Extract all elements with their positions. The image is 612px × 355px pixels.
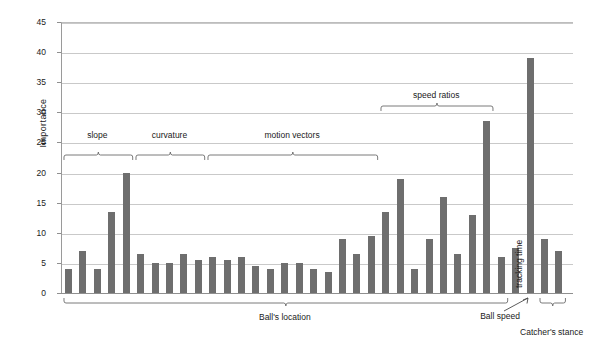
motion-vectors-label: motion vectors <box>264 130 319 140</box>
bar <box>108 212 115 293</box>
catchers-stance-label: Catcher's stance <box>520 327 583 337</box>
bar <box>411 269 418 293</box>
y-tick-label-30: 30 <box>20 108 46 117</box>
slope-brace <box>63 148 134 162</box>
bar <box>65 269 72 293</box>
bar <box>382 212 389 293</box>
bar <box>166 263 173 293</box>
bar <box>180 254 187 293</box>
bar <box>123 173 130 293</box>
bar-chart: Importance 051015202530354045 slope curv… <box>0 0 612 355</box>
bar <box>397 179 404 293</box>
bar <box>339 239 346 293</box>
bar <box>469 215 476 293</box>
y-tick-label-0: 0 <box>20 289 46 298</box>
y-tick-label-35: 35 <box>20 78 46 87</box>
slope-label: slope <box>87 130 107 140</box>
ball-speed-label: Ball speed <box>480 311 520 321</box>
bar <box>224 260 231 293</box>
y-tick-label-20: 20 <box>20 169 46 178</box>
bar <box>454 254 461 293</box>
y-tick-label-40: 40 <box>20 48 46 57</box>
bar <box>152 263 159 293</box>
x-axis-baseline <box>61 293 573 294</box>
bar <box>267 269 274 293</box>
bar <box>440 197 447 293</box>
bar <box>353 254 360 293</box>
bar <box>238 257 245 293</box>
y-tick-label-5: 5 <box>20 259 46 268</box>
bar <box>483 121 490 293</box>
bar <box>195 260 202 293</box>
bar <box>498 257 505 293</box>
bar <box>137 254 144 293</box>
bar <box>368 236 375 293</box>
bar <box>296 263 303 293</box>
y-tick-label-10: 10 <box>20 229 46 238</box>
y-axis-label: Importance <box>38 78 48 168</box>
bar <box>281 263 288 293</box>
bar <box>310 269 317 293</box>
curvature-brace <box>135 148 206 162</box>
balls-location-brace <box>63 296 509 310</box>
bar <box>325 272 332 293</box>
speed-ratios-brace <box>380 99 494 113</box>
balls-location-label: Ball's location <box>259 312 311 322</box>
catchers-stance-brace <box>539 296 566 310</box>
bar <box>541 239 548 293</box>
y-tick-label-45: 45 <box>20 18 46 27</box>
y-tick-label-25: 25 <box>20 138 46 147</box>
tracking-time-label: tracking time <box>514 240 524 288</box>
bar <box>209 257 216 293</box>
bar <box>252 266 259 293</box>
bar <box>79 251 86 293</box>
bar <box>527 58 534 293</box>
bar <box>555 251 562 293</box>
curvature-label: curvature <box>152 130 187 140</box>
y-tick-label-15: 15 <box>20 199 46 208</box>
bar <box>94 269 101 293</box>
speed-ratios-label: speed ratios <box>413 90 459 100</box>
motion-vectors-brace <box>207 148 379 162</box>
bar <box>426 239 433 293</box>
